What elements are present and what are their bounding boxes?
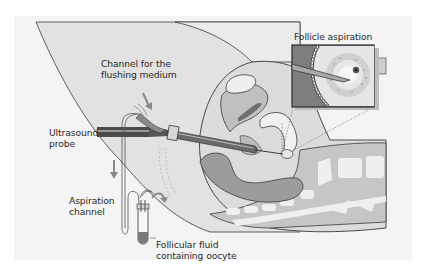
label-aspiration-channel: Aspiration channel: [69, 196, 114, 217]
label-flushing-channel: Channel for the flushing medium: [101, 59, 177, 80]
inset-title: Follicle aspiration: [294, 32, 372, 43]
label-ultrasound-probe: Ultrasound probe: [49, 128, 98, 149]
ivf-follicle-aspiration-diagram: Channel for the flushing medium Ultrasou…: [0, 0, 427, 275]
follicle-inset: [292, 45, 386, 110]
label-follicular-fluid: Follicular fluid containing oocyte: [156, 240, 237, 261]
